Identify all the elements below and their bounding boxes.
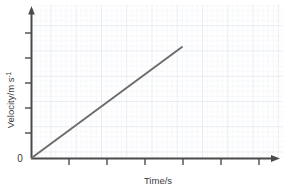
velocity-time-graph: 0 Velocity/m s-1 Time/s xyxy=(0,0,288,190)
velocity-axis-label-text: Velocity/m s xyxy=(5,77,16,128)
origin-label: 0 xyxy=(17,153,23,164)
time-axis-label: Time/s xyxy=(144,175,172,186)
velocity-axis-label-superscript: -1 xyxy=(5,71,12,77)
chart-canvas: 0 Velocity/m s-1 Time/s xyxy=(0,0,288,190)
velocity-axis-ticks xyxy=(25,33,31,133)
svg-text:Velocity/m s-1: Velocity/m s-1 xyxy=(5,71,16,128)
velocity-axis-label: Velocity/m s-1 xyxy=(5,71,16,128)
grid-area xyxy=(31,5,283,158)
